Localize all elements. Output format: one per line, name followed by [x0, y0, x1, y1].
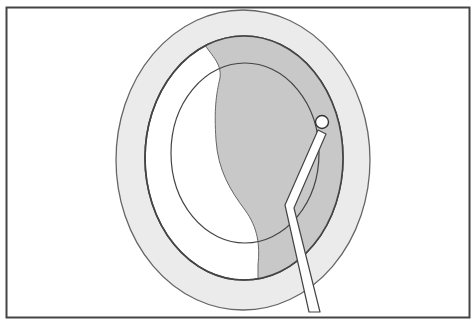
probe-tip [316, 116, 329, 129]
diagram-figure [0, 0, 475, 321]
